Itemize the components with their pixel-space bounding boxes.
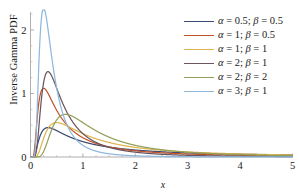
x-tick-label: 0	[28, 160, 33, 171]
legend-item-0[interactable]: α = 0.5; β = 0.5	[184, 14, 299, 28]
legend-item-2[interactable]: α = 1; β = 1	[184, 42, 299, 56]
legend-item-label: α = 0.5; β = 0.5	[218, 16, 283, 27]
legend-item-label: α = 2; β = 2	[218, 72, 267, 83]
legend-item-label: α = 1; β = 1	[218, 44, 267, 55]
legend-item-label: α = 1; β = 0.5	[218, 30, 275, 41]
x-tick-label: 1	[80, 160, 85, 171]
legend-color-swatch	[184, 21, 214, 22]
x-tick-label: 4	[237, 160, 243, 171]
x-tick-label: 3	[185, 160, 190, 171]
y-tick-label: 0	[21, 152, 26, 163]
y-tick-label: 1	[21, 88, 26, 99]
legend-item-5[interactable]: α = 3; β = 1	[184, 84, 299, 98]
legend-item-3[interactable]: α = 2; β = 1	[184, 56, 299, 70]
y-tick-label: 2	[21, 25, 26, 36]
legend-color-swatch	[184, 91, 214, 92]
legend-color-swatch	[184, 77, 214, 78]
legend-color-swatch	[184, 63, 214, 64]
legend-item-label: α = 3; β = 1	[218, 86, 267, 97]
legend-item-1[interactable]: α = 1; β = 0.5	[184, 28, 299, 42]
legend: α = 0.5; β = 0.5α = 1; β = 0.5α = 1; β =…	[184, 14, 299, 98]
legend-item-label: α = 2; β = 1	[218, 58, 267, 69]
legend-color-swatch	[184, 49, 214, 50]
x-tick-label: 5	[290, 160, 295, 171]
x-axis-title: x	[160, 179, 166, 190]
legend-color-swatch	[184, 35, 214, 36]
y-axis-title: Inverse Gamma PDF	[8, 0, 19, 120]
inverse-gamma-pdf-chart: 012345012 x Inverse Gamma PDF α = 0.5; β…	[0, 0, 299, 192]
x-tick-label: 2	[133, 160, 138, 171]
curve-series-1	[31, 88, 293, 157]
legend-item-4[interactable]: α = 2; β = 2	[184, 70, 299, 84]
